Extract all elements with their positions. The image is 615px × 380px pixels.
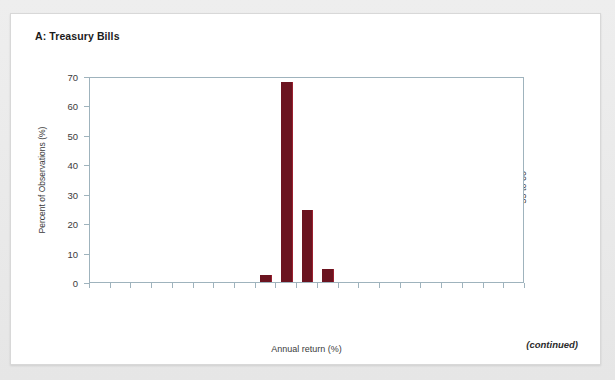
y-tick-label: 50 — [67, 131, 78, 142]
bar-series — [90, 78, 523, 282]
y-axis-title: Percent of Observations (%) — [37, 77, 51, 283]
x-axis-title: Annual return (%) — [89, 344, 524, 354]
bar — [302, 210, 314, 282]
y-tick-label: 70 — [67, 72, 78, 83]
bar — [260, 275, 272, 282]
y-tick-label: 30 — [67, 190, 78, 201]
y-tick-label: 60 — [67, 101, 78, 112]
page-title: A: Treasury Bills — [35, 30, 120, 42]
bar — [281, 82, 293, 282]
y-tick-label: 40 — [67, 160, 78, 171]
figure-page: A: Treasury Bills 010203040506070−45 to … — [0, 0, 615, 380]
plot-area — [89, 77, 524, 283]
bar — [322, 269, 334, 282]
x-tick-mark — [89, 283, 90, 288]
figure-panel: A: Treasury Bills 010203040506070−45 to … — [10, 13, 601, 365]
continued-note: (continued) — [526, 339, 578, 350]
y-tick-label: 10 — [67, 249, 78, 260]
y-tick-label: 20 — [67, 219, 78, 230]
y-tick-label: 0 — [73, 278, 78, 289]
